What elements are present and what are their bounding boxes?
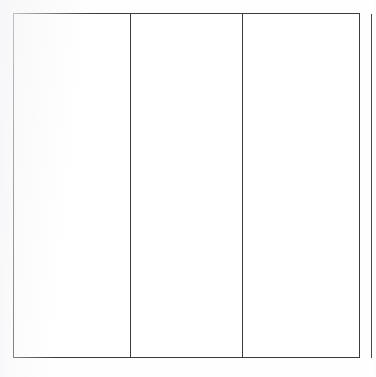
table-cell-column-3-text — [243, 14, 359, 24]
table-cell-column-3[interactable] — [243, 14, 359, 357]
table-cell-column-1[interactable] — [14, 14, 130, 357]
table-cell-column-2[interactable] — [131, 14, 242, 357]
right-page-margin — [372, 0, 376, 377]
table-bottom-border — [13, 357, 360, 358]
table-cell-column-1-text — [14, 14, 130, 24]
scanned-page — [0, 0, 376, 377]
blank-three-column-table[interactable] — [13, 13, 360, 358]
table-right-border — [359, 13, 360, 358]
left-page-margin — [0, 0, 13, 377]
table-cell-column-2-text — [131, 14, 242, 24]
